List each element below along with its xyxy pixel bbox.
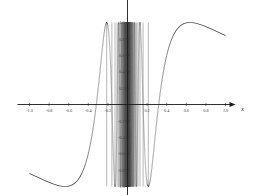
x-axis-arrow-icon [230,102,236,107]
x-tick-label: 0.4 [164,108,170,113]
y-tick-label: -0.4 [118,135,126,140]
x-tick-label: -1.0 [26,108,33,113]
plot-canvas: -1.0-0.8-0.6-0.4-0.20.20.40.60.81.0 1.00… [0,0,256,195]
y-tick-label: 1.0 [119,20,124,25]
y-tick-label: 0.6 [119,53,124,58]
y-tick-label: -0.2 [118,119,125,124]
y-tick-label: 0.4 [119,69,125,74]
x-tick-label: 0.2 [144,108,149,113]
y-tick-label: -1.0 [118,184,125,189]
x-tick-label: -0.6 [65,108,72,113]
y-tick-label: -0.8 [118,168,125,173]
y-tick-label: 0.8 [119,37,124,42]
x-tick-label: -0.2 [105,108,112,113]
x-tick-label: 1.0 [223,108,228,113]
y-tick-label: -0.6 [118,151,125,156]
x-axis-label: x [240,106,244,112]
x-tick-label: -0.4 [85,108,93,113]
plot-figure: -1.0-0.8-0.6-0.4-0.20.20.40.60.81.0 1.00… [0,0,256,195]
x-tick-label: -0.8 [46,108,53,113]
y-tick-label: 0.2 [119,86,124,91]
x-tick-label: 0.8 [203,108,208,113]
x-tick-label: 0.6 [184,108,189,113]
